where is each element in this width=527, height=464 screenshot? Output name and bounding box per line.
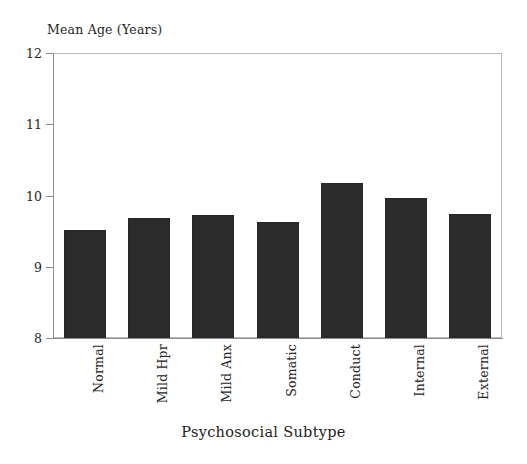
y-axis-tick-label: 11: [12, 117, 42, 132]
bar: [449, 214, 491, 338]
y-axis-tick-label: 9: [12, 259, 42, 274]
y-axis-tick-mark: [46, 53, 54, 54]
bar: [192, 215, 234, 338]
bar: [257, 222, 299, 338]
y-axis-tick-label: 10: [12, 188, 42, 203]
x-axis-tick-label: Somatic: [284, 344, 299, 397]
y-axis-tick-label: 8: [12, 331, 42, 346]
x-axis-tick-label: Mild Anx: [219, 344, 234, 403]
y-axis-title: Mean Age (Years): [47, 22, 162, 37]
x-axis-tick-label: External: [476, 344, 491, 400]
bar-chart-figure: Mean Age (Years) 89101112 NormalMild Hpr…: [0, 0, 527, 464]
y-axis-tick-mark: [46, 196, 54, 197]
bar: [321, 183, 363, 338]
x-axis-tick-label: Mild Hpr: [155, 344, 170, 403]
x-axis-tick-label: Normal: [91, 344, 106, 393]
bar: [385, 198, 427, 338]
bar: [128, 218, 170, 338]
x-axis-title: Psychosocial Subtype: [0, 424, 527, 440]
x-axis-tick-label: Internal: [412, 344, 427, 397]
y-axis-tick-mark: [46, 124, 54, 125]
y-axis-tick-mark: [46, 338, 54, 339]
y-axis-tick-label: 12: [12, 46, 42, 61]
bar: [64, 230, 106, 338]
x-axis-tick-label: Conduct: [348, 344, 363, 399]
x-axis-line: [53, 338, 503, 339]
y-axis-tick-mark: [46, 267, 54, 268]
